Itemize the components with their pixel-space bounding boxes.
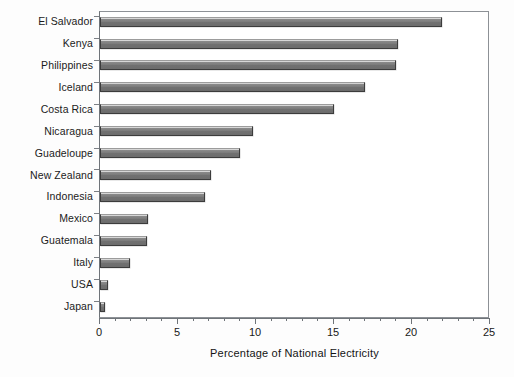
- x-axis-minor-tick: [458, 318, 459, 321]
- category-label: Indonesia: [0, 186, 93, 208]
- bar-row: Guadeloupe: [0, 143, 514, 165]
- x-axis-tick-label: 5: [174, 326, 180, 338]
- x-axis-minor-tick: [349, 318, 350, 321]
- x-axis-minor-tick: [442, 318, 443, 321]
- category-label: Iceland: [0, 77, 93, 99]
- bar: [100, 236, 147, 246]
- bar: [100, 192, 205, 202]
- x-axis-major-tick: [411, 318, 412, 324]
- bar: [100, 302, 105, 312]
- x-axis-minor-tick: [427, 318, 428, 321]
- category-label: Italy: [0, 252, 93, 274]
- x-axis-line: [99, 318, 490, 319]
- y-axis-tick: [94, 82, 99, 83]
- x-axis-title: Percentage of National Electricity: [99, 347, 490, 359]
- y-axis-tick: [94, 104, 99, 105]
- y-axis-tick: [94, 213, 99, 214]
- x-axis-minor-tick: [271, 318, 272, 321]
- bar-row: Costa Rica: [0, 99, 514, 121]
- category-label: USA: [0, 274, 93, 296]
- x-axis-tick-label: 25: [483, 326, 495, 338]
- x-axis-minor-tick: [224, 318, 225, 321]
- y-axis-tick: [94, 169, 99, 170]
- y-axis-tick: [94, 301, 99, 302]
- bar: [100, 258, 130, 268]
- x-axis-minor-tick: [161, 318, 162, 321]
- x-axis-minor-tick: [130, 318, 131, 321]
- bar-row: Philippines: [0, 55, 514, 77]
- bar: [100, 280, 108, 290]
- bar: [100, 17, 442, 27]
- y-axis-tick: [94, 257, 99, 258]
- x-axis-minor-tick: [395, 318, 396, 321]
- x-axis-major-tick: [177, 318, 178, 324]
- y-axis-tick: [94, 235, 99, 236]
- x-axis-major-tick: [489, 318, 490, 324]
- bar-rows: El SalvadorKenyaPhilippinesIcelandCosta …: [0, 11, 514, 318]
- x-axis-tick-label: 20: [405, 326, 417, 338]
- bar: [100, 60, 396, 70]
- category-label: Costa Rica: [0, 99, 93, 121]
- chart-figure: El SalvadorKenyaPhilippinesIcelandCosta …: [0, 0, 514, 377]
- y-axis-tick: [94, 16, 99, 17]
- x-axis-minor-tick: [286, 318, 287, 321]
- x-axis-minor-tick: [317, 318, 318, 321]
- x-axis-minor-tick: [208, 318, 209, 321]
- x-axis-minor-tick: [364, 318, 365, 321]
- x-axis-major-tick: [99, 318, 100, 324]
- category-label: Guadeloupe: [0, 143, 93, 165]
- bar-row: El Salvador: [0, 11, 514, 33]
- x-axis-minor-tick: [302, 318, 303, 321]
- category-label: Guatemala: [0, 230, 93, 252]
- bar-row: New Zealand: [0, 165, 514, 187]
- y-axis-tick: [94, 148, 99, 149]
- y-axis-tick: [94, 60, 99, 61]
- bar-row: Indonesia: [0, 186, 514, 208]
- bar: [100, 170, 211, 180]
- x-axis-tick-label: 10: [249, 326, 261, 338]
- x-axis-major-tick: [255, 318, 256, 324]
- x-axis-minor-tick: [380, 318, 381, 321]
- x-axis-minor-tick: [193, 318, 194, 321]
- bar: [100, 39, 398, 49]
- bar-row: Kenya: [0, 33, 514, 55]
- x-axis-minor-tick: [473, 318, 474, 321]
- category-label: El Salvador: [0, 11, 93, 33]
- bar-row: Italy: [0, 252, 514, 274]
- bar-row: Mexico: [0, 208, 514, 230]
- bar-row: USA: [0, 274, 514, 296]
- category-label: Mexico: [0, 208, 93, 230]
- category-label: New Zealand: [0, 165, 93, 187]
- category-label: Japan: [0, 296, 93, 318]
- bar: [100, 82, 365, 92]
- bar: [100, 104, 334, 114]
- bar: [100, 126, 253, 136]
- category-label: Philippines: [0, 55, 93, 77]
- bar-row: Guatemala: [0, 230, 514, 252]
- y-axis-tick: [94, 38, 99, 39]
- x-axis-major-tick: [333, 318, 334, 324]
- bar: [100, 214, 148, 224]
- bar-row: Nicaragua: [0, 121, 514, 143]
- y-axis-tick: [94, 126, 99, 127]
- x-axis-minor-tick: [146, 318, 147, 321]
- category-label: Nicaragua: [0, 121, 93, 143]
- x-axis-tick-label: 0: [96, 326, 102, 338]
- y-axis-tick: [94, 279, 99, 280]
- bar: [100, 148, 240, 158]
- x-axis-minor-tick: [239, 318, 240, 321]
- x-axis-tick-label: 15: [327, 326, 339, 338]
- bar-row: Iceland: [0, 77, 514, 99]
- category-label: Kenya: [0, 33, 93, 55]
- bar-row: Japan: [0, 296, 514, 318]
- x-axis-minor-tick: [115, 318, 116, 321]
- y-axis-tick: [94, 191, 99, 192]
